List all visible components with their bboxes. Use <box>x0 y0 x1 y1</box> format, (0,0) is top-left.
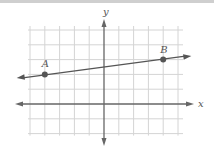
x-axis-arrow-left-icon <box>15 102 23 107</box>
y-axis-arrow-down-icon <box>102 138 107 146</box>
x-axis-arrow-right-icon <box>186 102 194 107</box>
point-label-a: A <box>41 58 49 69</box>
grid-lines <box>28 26 183 136</box>
axes <box>15 19 194 146</box>
x-axis-label: x <box>198 98 204 109</box>
y-axis-label: y <box>102 6 109 17</box>
point-b <box>160 57 166 63</box>
coordinate-plane: AB x y <box>0 0 214 154</box>
line-arrow-right-icon <box>183 54 191 60</box>
point-label-b: B <box>159 44 167 55</box>
y-axis-arrow-up-icon <box>102 19 107 27</box>
point-a <box>42 71 48 77</box>
line-arrow-left-icon <box>17 74 25 80</box>
